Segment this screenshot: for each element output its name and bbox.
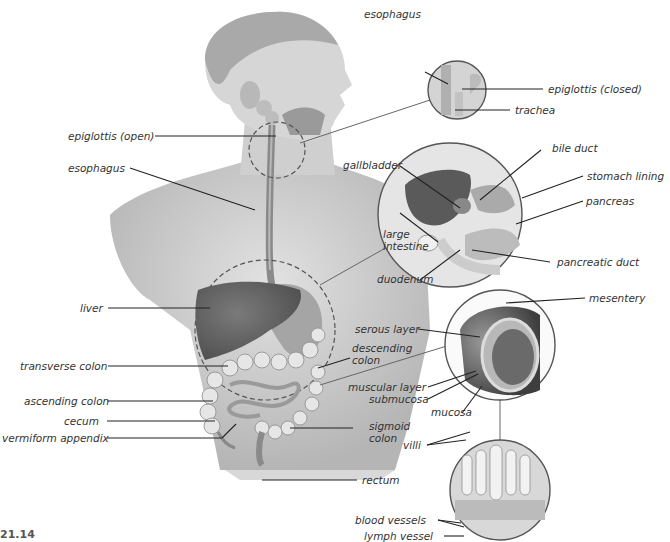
anatomy-illustration xyxy=(0,0,670,542)
label-transverse-colon: transverse colon xyxy=(20,360,107,372)
label-epiglottis-open: epiglottis (open) xyxy=(68,130,154,142)
label-epiglottis-closed: epiglottis (closed) xyxy=(548,83,642,95)
label-sigmoid-colon-2: colon xyxy=(369,432,397,444)
inset-villi xyxy=(450,440,550,540)
label-blood-vessels: blood vessels xyxy=(355,514,426,526)
label-stomach-lining: stomach lining xyxy=(587,170,664,182)
label-rectum: rectum xyxy=(362,474,400,486)
label-liver: liver xyxy=(80,302,103,314)
label-ascending-colon: ascending colon xyxy=(24,395,109,407)
label-cecum: cecum xyxy=(64,415,99,427)
label-muscular-layer: muscular layer xyxy=(348,381,426,393)
label-trachea: trachea xyxy=(515,104,555,116)
label-large-intestine-1: large xyxy=(383,228,410,240)
label-villi: villi xyxy=(403,439,421,451)
label-gallbladder: gallbladder xyxy=(343,159,402,171)
digestive-system-diagram: esophagus epiglottis (closed) trachea ep… xyxy=(0,0,670,542)
label-vermiform-appendix: vermiform appendix xyxy=(2,432,109,444)
human-figure xyxy=(110,12,430,480)
label-esophagus: esophagus xyxy=(68,162,125,174)
label-pancreatic-duct: pancreatic duct xyxy=(557,256,639,268)
label-serous-layer: serous layer xyxy=(355,323,419,335)
inset-intestine-wall xyxy=(445,290,555,400)
label-mucosa: mucosa xyxy=(431,406,472,418)
label-descending-colon-2: colon xyxy=(352,354,380,366)
label-mesentery: mesentery xyxy=(589,292,645,304)
label-pancreas: pancreas xyxy=(586,195,634,207)
label-sigmoid-colon-1: sigmoid xyxy=(369,420,410,432)
label-submucosa: submucosa xyxy=(369,393,429,405)
label-descending-colon-1: descending xyxy=(352,342,412,354)
label-duodenum: duodenum xyxy=(377,273,433,285)
label-bile-duct: bile duct xyxy=(552,142,598,154)
label-esophagus-inset: esophagus xyxy=(364,8,421,20)
label-large-intestine-2: intestine xyxy=(383,240,429,252)
figure-number: 21.14 xyxy=(0,528,35,541)
label-lymph-vessel: lymph vessel xyxy=(364,530,433,542)
